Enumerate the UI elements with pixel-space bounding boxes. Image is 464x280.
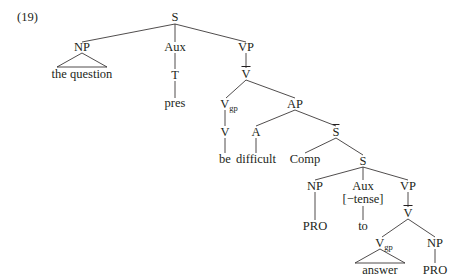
node-v: V [220, 125, 229, 139]
v-gp-subscript: gp [384, 242, 393, 252]
tree-branches [0, 0, 464, 280]
node-ap: AP [287, 97, 303, 111]
node-v-gp: Vgp [220, 97, 238, 111]
node-v-bar: V [241, 67, 250, 81]
node-s-embedded: S [360, 154, 367, 168]
node-aux-embedded: Aux [352, 179, 374, 193]
node-vp: VP [238, 40, 254, 54]
node-aux: Aux [164, 40, 186, 54]
node-np-embedded: NP [307, 179, 323, 193]
feature-minus-tense: [−tense] [342, 192, 383, 206]
v-gp-label: V [375, 236, 384, 250]
node-t: T [171, 68, 179, 82]
node-v-gp-embedded: Vgp [375, 236, 393, 250]
leaf-pres: pres [165, 96, 186, 110]
node-comp: Comp [290, 152, 321, 166]
v-gp-subscript: gp [229, 103, 238, 113]
leaf-the-question: the question [52, 67, 113, 81]
leaf-pro-object: PRO [423, 263, 447, 277]
leaf-pro-subject: PRO [303, 219, 327, 233]
node-vp-embedded: VP [400, 179, 416, 193]
leaf-answer: answer [362, 263, 397, 277]
node-v-bar-embedded: V [403, 206, 412, 220]
node-np-subject: NP [74, 40, 90, 54]
leaf-to: to [358, 219, 368, 233]
node-a: A [251, 125, 260, 139]
leaf-be: be [219, 152, 231, 166]
v-gp-label: V [220, 97, 229, 111]
node-s-bar: S [333, 125, 340, 139]
leaf-difficult: difficult [236, 152, 276, 166]
node-s-root: S [172, 10, 179, 24]
node-np-object: NP [427, 236, 443, 250]
